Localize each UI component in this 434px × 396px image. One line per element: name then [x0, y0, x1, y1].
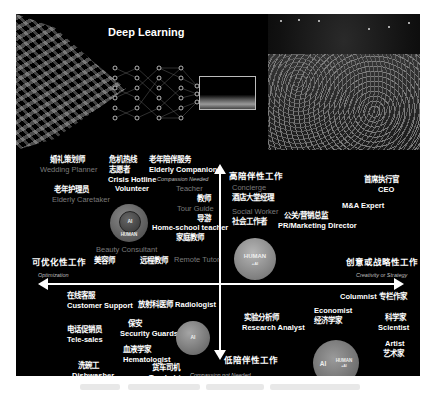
stage-light: [408, 22, 410, 24]
human-outer-label: HUMAN: [111, 232, 147, 237]
ai-left-label: AI: [317, 360, 329, 367]
job-concierge-zh: 酒店大堂经理: [232, 194, 274, 202]
stage-light: [368, 28, 370, 30]
plus-ai-circle-label: +AI: [234, 261, 276, 266]
job-elderly-caretaker-en: Elderly Caretaker: [52, 196, 110, 204]
job-customer-support-zh: 在线客服: [67, 292, 95, 300]
human-circle-label: HUMAN: [234, 253, 276, 259]
job-customer-support-en: Customer Support: [67, 302, 133, 310]
job-research-analyst-en: Research Analyst: [242, 324, 305, 332]
job-home-school-zh: 家庭教师: [176, 234, 204, 242]
job-wedding-planner-en: Wedding Planner: [40, 166, 97, 174]
job-remote-tutor-zh: 远程教师: [140, 257, 168, 265]
output-image-frame: [199, 76, 256, 110]
job-social-worker-en: Social Worker: [232, 208, 279, 216]
stage-light: [280, 20, 282, 22]
job-pr-director-zh: 公关/营销总监: [284, 212, 328, 220]
job-tele-sales-en: Tele-sales: [67, 336, 103, 344]
job-pr-director-en: PR/Marketing Director: [278, 222, 357, 230]
job-dishwasher-en: Dishwasher: [72, 372, 114, 376]
job-scientist-zh: 科学家: [385, 314, 406, 322]
human-right-label: HUMAN: [331, 358, 357, 363]
axis-label-low-zh: 低陪伴性工作: [224, 356, 278, 365]
job-economist-zh: 经济学家: [314, 317, 342, 325]
job-crisis-en-1: Crisis Hotline: [108, 176, 156, 184]
job-economist-en: Economist: [314, 307, 352, 315]
job-beauty-en: Beauty Consultant: [96, 246, 157, 254]
job-elderly-caretaker-zh: 老年护理员: [54, 186, 89, 194]
job-tour-guide-zh: 导游: [197, 215, 211, 223]
job-artist-en: Artist: [385, 340, 405, 348]
crowd-texture: [268, 54, 420, 150]
job-concierge-en: Concierge: [232, 184, 266, 192]
human-plus-ai-circle: [234, 238, 276, 280]
job-columnist: Columnist 专栏作家: [340, 293, 407, 301]
job-crisis-en-2: Volunteer: [115, 185, 149, 193]
horizontal-axis: [46, 283, 396, 285]
caption-blurred: [128, 384, 200, 390]
job-truck-driver-zh: 货车司机: [152, 364, 180, 372]
job-ceo-zh: 首席执行官: [364, 176, 399, 184]
quadrant-chart: Compassion Needed 高陪伴性工作 低陪伴性工作 Compassi…: [16, 150, 420, 376]
job-security-en: Security Guards: [120, 330, 178, 338]
figure-panel: Deep Learning: [16, 14, 420, 376]
job-security-zh: 保安: [128, 320, 142, 328]
job-home-school-en: Home-school teacher: [152, 224, 228, 232]
neural-network-icon: [111, 64, 201, 124]
job-research-analyst-zh: 实验分析师: [244, 314, 279, 322]
caption-blurred: [80, 384, 120, 390]
job-teacher-zh: 教师: [197, 195, 211, 203]
job-wedding-planner-zh: 婚礼策划师: [50, 156, 85, 164]
deep-learning-image: Deep Learning: [16, 14, 266, 150]
stage-light: [318, 20, 320, 22]
arrow-left-icon: [38, 278, 48, 290]
job-teacher-en: Teacher: [176, 185, 203, 193]
ai-inner-label: AI: [120, 218, 140, 224]
job-elderly-companion-en: Elderly Companion: [149, 166, 217, 174]
job-artist-zh: 艺术家: [383, 350, 404, 358]
job-ceo-en: CEO: [378, 186, 394, 194]
plus-ai-right-label: +AI: [331, 364, 357, 368]
axis-label-optimization-zh: 可优化性工作: [32, 258, 86, 267]
job-scientist-en: Scientist: [378, 324, 409, 332]
job-radiologist: 放射科医师 Radiologist: [138, 301, 216, 309]
axis-label-high-zh: 高陪伴性工作: [229, 172, 283, 181]
job-ma-expert-en: M&A Expert: [342, 202, 384, 210]
job-remote-tutor-en: Remote Tutor: [174, 256, 219, 264]
job-hematologist-zh: 血液学家: [123, 346, 151, 354]
caption-blurred: [206, 384, 264, 390]
axis-label-optimization-en: Optimization: [38, 272, 69, 278]
job-crisis-zh-2: 志愿者: [109, 166, 130, 174]
job-elderly-companion-zh: 老年陪伴服务: [149, 156, 191, 164]
stage-light: [388, 26, 390, 28]
axis-label-creativity-en: Creativity or Strategy: [356, 272, 407, 278]
ai-circle-label: AI: [176, 334, 210, 340]
job-beauty-zh: 美容师: [94, 257, 115, 265]
stage-light: [298, 19, 300, 21]
arrow-right-icon: [394, 278, 404, 290]
deep-learning-title: Deep Learning: [108, 26, 184, 38]
job-social-worker-zh: 社会工作者: [232, 218, 267, 226]
axis-label-creativity-zh: 创意或战略性工作: [346, 258, 418, 267]
job-crisis-zh-1: 危机热线: [109, 156, 137, 164]
caption-blurred: [270, 384, 360, 390]
axis-label-compassion-not-needed: Compassion not Needed: [190, 372, 251, 376]
axis-label-compassion-needed: Compassion Needed: [157, 176, 208, 182]
audience-photo: [268, 14, 420, 150]
job-tour-guide-en: Tour Guide: [177, 205, 214, 213]
job-truck-driver-en: Truck driver: [149, 374, 192, 376]
job-dishwasher-zh: 洗碗工: [78, 362, 99, 370]
job-tele-sales-zh: 电话促销员: [67, 326, 102, 334]
